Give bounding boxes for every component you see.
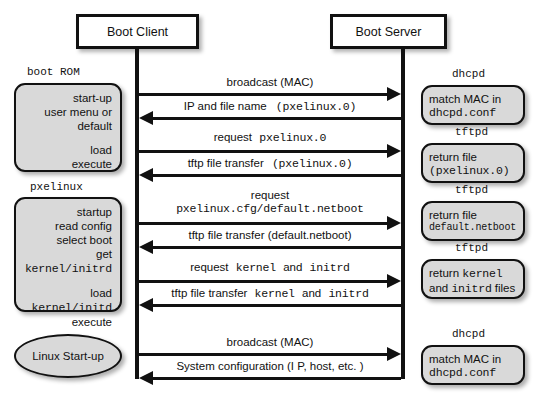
pxelinux-line-4-prefix: get xyxy=(96,248,112,260)
message-label-7: request kernel and initrd xyxy=(139,261,401,274)
state-box-tftpd-1: return file (pxelinux.0) xyxy=(421,143,525,183)
tftpd-2-line-1: return file xyxy=(429,208,517,222)
message-2-file: (pxelinux.0) xyxy=(276,100,356,113)
message-3-text: request xyxy=(214,131,252,143)
state-label-dhcpd-1: dhcpd xyxy=(452,68,485,80)
boot-rom-line-2: user menu or xyxy=(22,105,112,119)
tftpd-1-line-2: (pxelinux.0) xyxy=(429,164,517,178)
actor-boot-server: Boot Server xyxy=(330,14,447,49)
message-arrow-4 xyxy=(151,174,401,177)
message-3-file: pxelinux.0 xyxy=(259,131,326,144)
message-7-text: request xyxy=(190,261,228,273)
message-7-initrd: initrd xyxy=(310,261,350,274)
message-label-5: request pxelinux.cfg/default.netboot xyxy=(139,189,401,215)
message-label-1: broadcast (MAC) xyxy=(139,76,401,89)
lifeline-server xyxy=(401,49,405,379)
message-arrow-2 xyxy=(151,117,401,120)
message-2-text: IP and file name xyxy=(184,100,267,112)
boot-rom-line-4: load xyxy=(22,143,112,157)
message-arrowhead-2 xyxy=(139,111,153,125)
message-arrow-6 xyxy=(151,246,401,249)
linux-startup-label: Linux Start-up xyxy=(32,349,104,363)
message-7-kernel: kernel xyxy=(236,261,276,274)
tftpd-3-line-2-prefix: and xyxy=(429,282,451,294)
message-label-6: tftp file transfer (default.netboot) xyxy=(139,229,401,242)
message-arrow-8 xyxy=(151,304,401,307)
message-8-kernel: kernel xyxy=(255,287,295,300)
pxelinux-line-5: load kernel/initd xyxy=(22,286,112,315)
message-arrowhead-4 xyxy=(139,168,153,182)
message-arrowhead-3 xyxy=(387,144,401,158)
pxelinux-line-5-path: kernel/initd xyxy=(32,301,112,314)
message-8-and: and xyxy=(302,287,321,299)
state-box-linux-startup: Linux Start-up xyxy=(14,334,122,378)
message-7-and: and xyxy=(283,261,302,273)
boot-rom-line-5: execute xyxy=(22,157,112,171)
state-box-boot-rom: start-up user menu or default load execu… xyxy=(14,83,122,172)
pxelinux-line-6: execute xyxy=(22,315,112,329)
tftpd-1-line-1: return file xyxy=(429,150,517,164)
message-arrow-1 xyxy=(139,93,389,96)
pxelinux-line-1: startup xyxy=(22,205,112,219)
message-arrow-9 xyxy=(139,353,389,356)
state-label-pxelinux: pxelinux xyxy=(30,181,83,193)
message-5-line-1: request xyxy=(139,189,401,202)
message-label-8: tftp file transfer kernel and initrd xyxy=(139,287,401,300)
state-label-dhcpd-2: dhcpd xyxy=(452,328,485,340)
state-label-tftpd-3: tftpd xyxy=(455,242,488,254)
message-arrowhead-7 xyxy=(387,274,401,288)
pxelinux-spacer xyxy=(22,276,112,286)
state-box-pxelinux: startup read config select boot get kern… xyxy=(14,197,122,312)
message-arrowhead-1 xyxy=(387,87,401,101)
message-arrow-5 xyxy=(139,222,389,225)
state-box-tftpd-2: return file default.netboot xyxy=(421,201,525,241)
dhcpd-1-line-1: match MAC in xyxy=(429,92,517,106)
message-arrowhead-10 xyxy=(139,371,153,385)
tftpd-3-kernel: kernel xyxy=(462,267,502,280)
message-label-3: request pxelinux.0 xyxy=(139,131,401,144)
pxe-boot-sequence-diagram: Boot Client Boot Server boot ROM start-u… xyxy=(0,0,540,409)
actor-boot-client: Boot Client xyxy=(76,14,199,49)
boot-rom-line-3: default xyxy=(22,119,112,133)
actor-boot-client-label: Boot Client xyxy=(107,25,168,39)
pxelinux-line-5-prefix: load xyxy=(90,287,112,299)
message-arrowhead-9 xyxy=(387,347,401,361)
tftpd-3-initrd: initrd xyxy=(451,282,491,295)
message-8-initrd: initrd xyxy=(328,287,368,300)
message-arrow-7 xyxy=(139,280,389,283)
pxelinux-line-4: get kernel/initrd xyxy=(22,247,112,276)
boot-rom-line-1: start-up xyxy=(22,91,112,105)
tftpd-3-line-2-suffix: files xyxy=(492,282,516,294)
state-box-dhcpd-1: match MAC in dhcpd.conf xyxy=(421,85,525,125)
state-label-tftpd-1: tftpd xyxy=(455,126,488,138)
message-arrow-10 xyxy=(151,377,401,380)
tftpd-2-line-2: default.netboot xyxy=(429,222,517,234)
actor-boot-server-label: Boot Server xyxy=(355,25,421,39)
state-label-boot-rom: boot ROM xyxy=(27,66,80,78)
message-5-line-2: pxelinux.cfg/default.netboot xyxy=(139,202,401,215)
pxelinux-line-2: read config xyxy=(22,219,112,233)
message-arrow-3 xyxy=(139,150,389,153)
dhcpd-2-line-2: dhcpd.conf xyxy=(429,366,517,380)
state-box-dhcpd-2: match MAC in dhcpd.conf xyxy=(421,345,525,385)
tftpd-3-line-2: and initrd files xyxy=(429,281,517,296)
state-label-tftpd-2: tftpd xyxy=(455,184,488,196)
message-arrowhead-5 xyxy=(387,216,401,230)
message-label-9: broadcast (MAC) xyxy=(139,336,401,349)
message-label-2: IP and file name (pxelinux.0) xyxy=(139,100,401,113)
message-8-text: tftp file transfer xyxy=(171,287,247,299)
message-label-4: tftp file transfer (pxelinux.0) xyxy=(139,157,401,170)
tftpd-3-line-1-prefix: return xyxy=(429,267,462,279)
dhcpd-1-line-2: dhcpd.conf xyxy=(429,106,517,120)
state-box-tftpd-3: return kernel and initrd files xyxy=(421,259,525,299)
dhcpd-2-line-1: match MAC in xyxy=(429,352,517,366)
message-arrowhead-8 xyxy=(139,298,153,312)
tftpd-3-line-1: return kernel xyxy=(429,266,517,281)
pxelinux-line-3: select boot xyxy=(22,233,112,247)
message-label-10: System configuration (I P, host, etc. ) xyxy=(139,360,401,373)
message-arrowhead-6 xyxy=(139,240,153,254)
pxelinux-line-4-path: kernel/initrd xyxy=(25,262,112,275)
message-4-file: (pxelinux.0) xyxy=(272,157,352,170)
message-4-text: tftp file transfer xyxy=(188,157,264,169)
boot-rom-spacer xyxy=(22,133,112,143)
